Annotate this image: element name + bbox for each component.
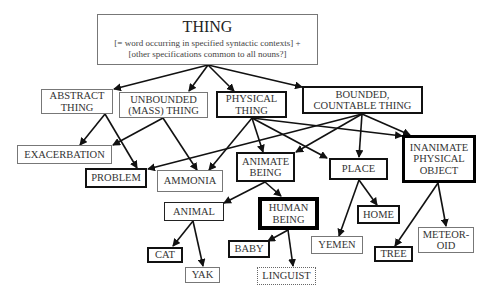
node-label: BOUNDED,: [336, 89, 390, 100]
node-inanimate-object: INANIMATE PHYSICAL OBJECT: [402, 135, 476, 183]
edge-human-linguist: [288, 230, 293, 266]
node-thing-title: THING: [183, 19, 233, 36]
edge-abstract-exacerbation: [80, 114, 105, 145]
node-label: INANIMATE: [410, 142, 468, 153]
node-label: EXACERBATION: [24, 149, 105, 160]
node-label: COUNTABLE THING: [314, 100, 412, 111]
edge-thing-bounded: [208, 65, 302, 87]
edge-place-yemen: [339, 180, 359, 236]
node-meteoroid: METEOR- OID: [418, 227, 474, 253]
node-label: ANIMAL: [173, 206, 215, 217]
node-label: UNBOUNDED: [130, 94, 197, 105]
node-label: BEING: [272, 214, 304, 225]
node-label: CAT: [155, 249, 175, 260]
node-label: PHYSICAL: [413, 153, 464, 164]
node-label: AMMONIA: [164, 175, 217, 186]
edge-place-home: [359, 180, 377, 205]
node-label: (MASS) THING: [128, 105, 199, 116]
edge-animal-cat: [173, 221, 193, 246]
node-linguist: LINGUIST: [257, 267, 316, 285]
edge-human-baby: [268, 230, 288, 241]
node-label: TREE: [380, 248, 406, 259]
node-label: THING: [235, 105, 268, 116]
node-label: THING: [61, 102, 94, 113]
node-tree: TREE: [374, 246, 413, 262]
node-yemen: YEMEN: [311, 236, 363, 254]
node-label: HUMAN: [269, 202, 309, 213]
node-yak: YAK: [185, 267, 220, 283]
node-label: HOME: [363, 209, 394, 220]
edge-animal-yak: [193, 221, 203, 266]
edge-thing-physical: [208, 65, 234, 91]
edge-bounded-place: [359, 114, 362, 157]
node-baby: BABY: [228, 240, 270, 258]
node-label: ABSTRACT: [50, 90, 105, 101]
node-label: OID: [437, 240, 456, 251]
node-label: ANIMATE: [242, 156, 289, 167]
node-label: YAK: [192, 269, 214, 280]
node-label: PROBLEM: [91, 172, 141, 183]
node-home: HOME: [357, 205, 400, 224]
node-label: LINGUIST: [262, 270, 310, 281]
node-exacerbation: EXACERBATION: [17, 145, 112, 164]
node-unbounded-thing: UNBOUNDED (MASS) THING: [119, 92, 208, 118]
node-label: OBJECT: [420, 165, 459, 176]
node-physical-thing: PHYSICAL THING: [216, 91, 287, 118]
node-label: BEING: [249, 167, 281, 178]
node-label: PLACE: [342, 163, 375, 174]
node-animate-being: ANIMATE BEING: [236, 152, 295, 182]
node-animal: ANIMAL: [164, 202, 224, 221]
node-label: METEOR-: [423, 229, 470, 240]
node-place: PLACE: [329, 158, 388, 180]
node-ammonia: AMMONIA: [157, 170, 223, 192]
node-problem: PROBLEM: [85, 168, 147, 188]
edge-unbounded-ammonia: [163, 118, 197, 170]
edge-bounded-animate: [296, 114, 362, 152]
node-label: YEMEN: [318, 239, 355, 250]
edge-animate-human: [265, 182, 281, 196]
node-human-being: HUMAN BEING: [258, 197, 319, 230]
node-label: BABY: [234, 243, 263, 254]
node-abstract-thing: ABSTRACT THING: [41, 89, 113, 114]
node-thing: THING [= word occurring in specified syn…: [97, 14, 318, 65]
node-cat: CAT: [147, 247, 183, 263]
node-thing-line2: [other specifications common to all noun…: [128, 49, 286, 60]
edge-inanimate-meteoroid: [438, 183, 446, 226]
node-thing-line1: [= word occurring in specified syntactic…: [114, 38, 300, 49]
node-bounded-thing: BOUNDED, COUNTABLE THING: [302, 86, 423, 114]
edge-unbounded-exacerbation: [113, 118, 163, 145]
node-label: PHYSICAL: [226, 93, 277, 104]
